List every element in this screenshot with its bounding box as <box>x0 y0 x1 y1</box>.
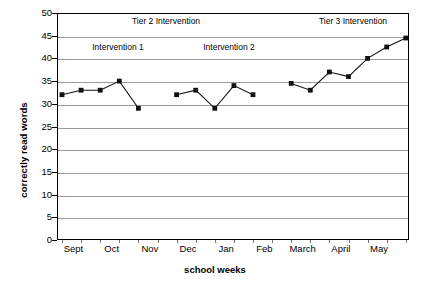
y-axis-tick-label: 5 <box>26 211 52 222</box>
chart-annotation: Intervention 1 <box>58 42 178 52</box>
x-axis-tick-label: May <box>356 243 402 254</box>
y-axis-tick-label: 25 <box>26 121 52 132</box>
y-axis-tick-label: 15 <box>26 166 52 177</box>
y-axis-tick-label: 35 <box>26 75 52 86</box>
plot-area: Tier 2 InterventionTier 3 InterventionIn… <box>57 13 409 240</box>
chart-container: correctly read words school weeks 051015… <box>0 0 430 289</box>
gridline <box>58 82 408 83</box>
gridline <box>58 59 408 60</box>
gridline <box>58 196 408 197</box>
gridline <box>58 150 408 151</box>
y-axis-tick-label: 10 <box>26 189 52 200</box>
gridline <box>58 37 408 38</box>
y-axis-tick-label: 30 <box>26 98 52 109</box>
y-axis-tick-label: 45 <box>26 30 52 41</box>
chart-annotation: Tier 3 Intervention <box>293 16 413 26</box>
gridline <box>58 105 408 106</box>
y-axis-tick-label: 50 <box>26 7 52 18</box>
y-axis-tick-label: 0 <box>26 234 52 245</box>
x-axis-title: school weeks <box>0 264 430 275</box>
chart-annotation: Intervention 2 <box>169 42 289 52</box>
gridline <box>58 218 408 219</box>
gridline <box>58 173 408 174</box>
gridline <box>58 128 408 129</box>
y-axis-tick-label: 20 <box>26 143 52 154</box>
chart-annotation: Tier 2 Intervention <box>106 16 226 26</box>
y-axis-tick-label: 40 <box>26 52 52 63</box>
y-axis-tick-mark <box>52 240 57 241</box>
x-axis-tick-mark <box>406 240 407 243</box>
